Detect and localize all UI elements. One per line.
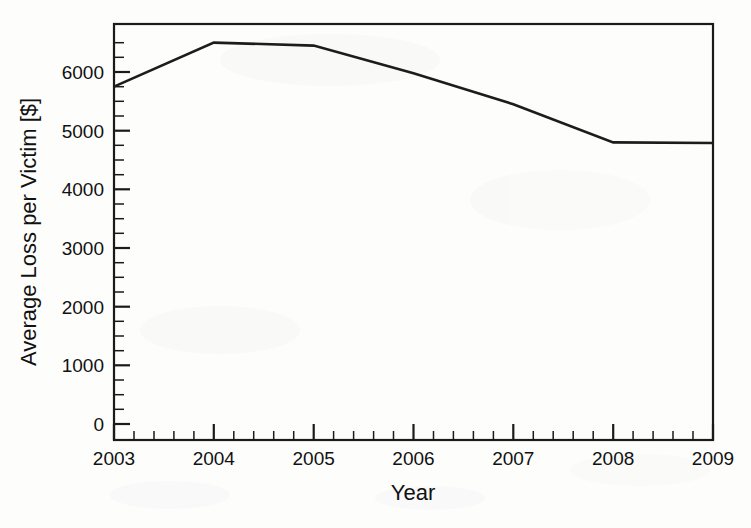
- x-tick-label-2008: 2008: [592, 448, 634, 469]
- y-axis-title: Average Loss per Victim [$]: [16, 98, 41, 366]
- x-tick-label-2003: 2003: [93, 448, 135, 469]
- y-tick-label-1000: 1000: [62, 355, 104, 376]
- y-tick-label-0: 0: [93, 414, 104, 435]
- x-tick-label-2007: 2007: [492, 448, 534, 469]
- y-tick-label-4000: 4000: [62, 179, 104, 200]
- chart-figure: 0 1000 2000 3000 4000 5000 6000 2003 200…: [0, 0, 751, 528]
- x-tick-label-2004: 2004: [193, 448, 236, 469]
- y-tick-label-5000: 5000: [62, 121, 104, 142]
- y-tick-label-3000: 3000: [62, 238, 104, 259]
- line-chart: 0 1000 2000 3000 4000 5000 6000 2003 200…: [0, 0, 751, 528]
- x-tick-label-2006: 2006: [392, 448, 434, 469]
- x-axis-title: Year: [391, 480, 435, 505]
- x-tick-label-2009: 2009: [692, 448, 734, 469]
- x-tick-label-2005: 2005: [293, 448, 335, 469]
- y-tick-label-6000: 6000: [62, 62, 104, 83]
- y-tick-label-2000: 2000: [62, 297, 104, 318]
